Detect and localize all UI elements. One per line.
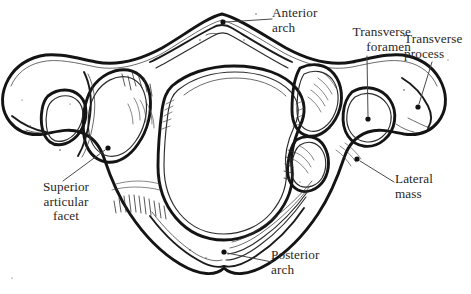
leader-lateral-mass: [360, 161, 394, 182]
label-transverse-foramen-line1: Transverse: [341, 25, 411, 40]
label-anterior-arch-line2: arch: [272, 21, 317, 36]
right-tip-speck-1: [403, 89, 405, 91]
label-lateral-mass-line2: mass: [395, 187, 433, 202]
anatomical-figure: Anterior arch Transverse foramen Transve…: [0, 0, 471, 294]
label-transverse-process-line2: process: [404, 47, 462, 62]
anterior-arch-speck-1: [199, 39, 201, 41]
label-posterior-arch-line2: arch: [271, 263, 320, 278]
leader-superior-articular-facet: [63, 150, 105, 181]
posterior-arch-speck-2: [205, 257, 206, 258]
anterior-arch-speck-2: [243, 39, 244, 40]
label-superior-articular-facet: Superior articular facet: [29, 180, 103, 224]
label-superior-articular-facet-line3: facet: [29, 209, 103, 224]
leader-dot-lateral-mass: [354, 156, 359, 161]
left-tip-speck-1: [29, 125, 31, 127]
leader-dot-transverse-foramen: [365, 116, 370, 121]
leader-dot-posterior-arch: [221, 249, 226, 254]
leader-dot-transverse-process: [415, 104, 420, 109]
label-transverse-foramen: Transverse foramen: [341, 25, 411, 54]
left-tip-speck-2: [59, 149, 61, 151]
label-transverse-process-line1: Transverse: [404, 32, 462, 47]
label-posterior-arch-line1: Posterior: [271, 248, 320, 263]
label-transverse-process: Transverse process: [404, 32, 462, 61]
label-superior-articular-facet-line1: Superior: [29, 180, 103, 195]
label-lateral-mass: Lateral mass: [395, 172, 433, 201]
label-transverse-foramen-line2: foramen: [341, 40, 411, 55]
label-anterior-arch: Anterior arch: [272, 6, 317, 35]
leader-dot-superior-articular-facet: [105, 145, 110, 150]
label-lateral-mass-line1: Lateral: [395, 172, 433, 187]
label-superior-articular-facet-line2: articular: [29, 195, 103, 210]
posterior-arch-speck-3: [159, 227, 160, 228]
leader-dot-anterior-arch: [220, 19, 225, 24]
label-anterior-arch-line1: Anterior: [272, 6, 317, 21]
label-posterior-arch: Posterior arch: [271, 248, 320, 277]
posterior-arch-speck-1: [189, 249, 191, 251]
